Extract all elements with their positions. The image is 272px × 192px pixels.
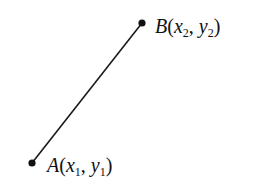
- paren-close: ): [214, 15, 221, 37]
- point-a-label: A(x1, y1): [47, 155, 112, 178]
- paren-close: ): [106, 154, 113, 176]
- point-b-name: B: [155, 15, 167, 37]
- segment-graphic: [0, 0, 272, 192]
- point-a-y: y: [91, 154, 100, 176]
- point-a-name: A: [47, 154, 59, 176]
- segment-ab: [32, 23, 142, 163]
- diagram-canvas: B(x2, y2) A(x1, y1): [0, 0, 272, 192]
- point-a-dot: [28, 159, 35, 166]
- comma: ,: [81, 154, 91, 176]
- point-b-label: B(x2, y2): [155, 16, 220, 39]
- paren-open: (: [167, 15, 174, 37]
- point-b-x: x: [174, 15, 183, 37]
- point-b-dot: [138, 19, 145, 26]
- paren-open: (: [59, 154, 66, 176]
- comma: ,: [189, 15, 199, 37]
- point-b-y: y: [199, 15, 208, 37]
- point-a-x: x: [66, 154, 75, 176]
